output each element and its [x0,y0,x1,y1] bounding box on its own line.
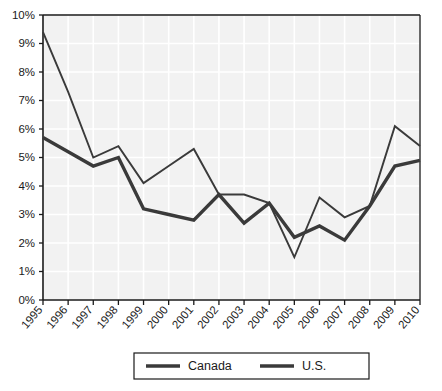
y-axis-tick-label: 2% [18,237,35,249]
line-chart: 0%1%2%3%4%5%6%7%8%9%10% 1995199619971998… [0,0,442,391]
legend-label[interactable]: U.S. [302,359,326,373]
y-axis-tick-label: 1% [18,265,35,277]
y-axis-tick-label: 4% [18,180,35,192]
y-axis-tick-label: 5% [18,151,35,163]
y-axis-tick-label: 9% [18,37,35,49]
y-axis-tick-label: 7% [18,94,35,106]
chart-canvas: 0%1%2%3%4%5%6%7%8%9%10% 1995199619971998… [0,0,442,391]
y-axis-tick-label: 10% [12,9,35,21]
y-axis-tick-label: 3% [18,208,35,220]
y-axis-tick-label: 8% [18,66,35,78]
y-axis-tick-label: 0% [18,294,35,306]
chart-legend[interactable]: CanadaU.S. [134,353,369,379]
legend-label[interactable]: Canada [188,359,232,373]
y-axis-tick-label: 6% [18,123,35,135]
